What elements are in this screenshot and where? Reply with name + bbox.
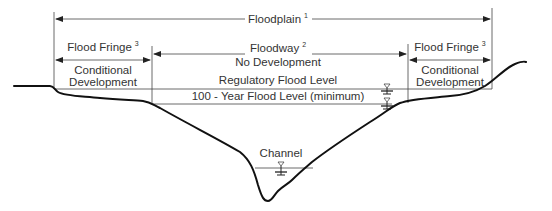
flood-fringe-right-subtitle-2: Development (416, 76, 485, 88)
flood-fringe-left-label: Flood Fringe3 (67, 40, 139, 53)
regulatory-flood-level-label: Regulatory Flood Level (219, 74, 337, 86)
channel-water-level-icon (275, 162, 287, 175)
channel-label: Channel (260, 147, 303, 159)
flood-fringe-right-label: Flood Fringe3 (414, 40, 486, 53)
flood-fringe-left-subtitle-1: Conditional (74, 64, 132, 76)
floodway-label: Floodway2 (250, 41, 306, 54)
flood-fringe-left-subtitle-2: Development (69, 76, 138, 88)
hundred-year-flood-level-label: 100 - Year Flood Level (minimum) (192, 90, 365, 102)
flood-fringe-right-subtitle-1: Conditional (421, 64, 479, 76)
floodway-subtitle: No Development (235, 56, 321, 68)
floodplain-diagram: Floodplain1 Flood Fringe3 Conditional De… (0, 0, 552, 211)
floodplain-label: Floodplain1 (248, 12, 308, 25)
